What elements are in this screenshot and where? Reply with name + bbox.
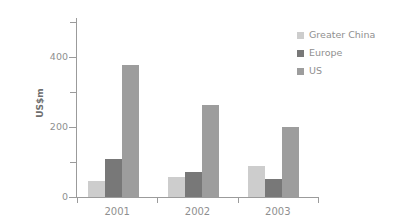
bar-europe-2002 [185, 172, 202, 197]
bar-greater-china-2003 [248, 166, 265, 197]
legend-item-greater-china[interactable]: Greater China [297, 27, 393, 43]
x-tick-label-2001: 2001 [87, 206, 147, 217]
y-tick-0 [69, 197, 76, 198]
legend-label: Greater China [309, 30, 375, 40]
bar-greater-china-2001 [88, 181, 105, 197]
bar-greater-china-2002 [168, 177, 185, 197]
x-tick-2003 [238, 197, 239, 203]
y-tick-500 [70, 22, 76, 23]
x-tick-2001 [77, 197, 78, 203]
x-tick-2002 [157, 197, 158, 203]
y-tick-100 [70, 162, 76, 163]
y-tick-label-200: 200 [28, 121, 68, 132]
y-tick-label-400: 400 [28, 51, 68, 62]
x-axis-line [76, 197, 318, 198]
legend-label: US [309, 66, 322, 76]
bar-us-2001 [122, 65, 139, 197]
bar-chart: US$m 0200400 200120022003 Greater ChinaE… [0, 0, 394, 224]
x-tick-label-2003: 2003 [248, 206, 308, 217]
y-tick-200 [69, 127, 76, 128]
y-tick-400 [69, 57, 76, 58]
y-tick-label-0: 0 [28, 191, 68, 202]
chart-legend: Greater ChinaEuropeUS [297, 27, 393, 81]
legend-item-us[interactable]: US [297, 63, 393, 79]
bar-us-2002 [202, 105, 219, 197]
legend-swatch-icon [297, 50, 304, 57]
bar-us-2003 [282, 127, 299, 197]
y-tick-300 [70, 92, 76, 93]
bar-europe-2003 [265, 179, 282, 197]
legend-swatch-icon [297, 68, 304, 75]
legend-label: Europe [309, 48, 342, 58]
bar-europe-2001 [105, 159, 122, 197]
x-tick-label-2002: 2002 [168, 206, 228, 217]
legend-item-europe[interactable]: Europe [297, 45, 393, 61]
plot-area [77, 18, 318, 197]
x-tick-end [318, 197, 319, 203]
legend-swatch-icon [297, 32, 304, 39]
